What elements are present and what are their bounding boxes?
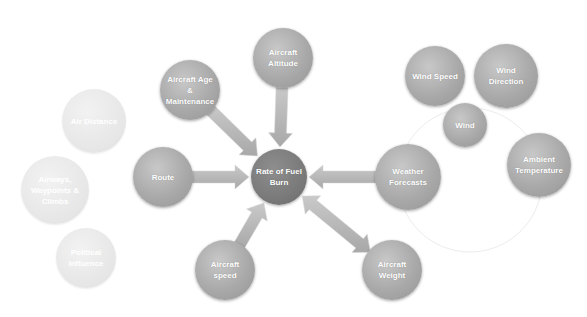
arrow-age: [206, 105, 258, 156]
node-rate-of-fuel-burn: Rate of Fuel Burn: [251, 149, 307, 205]
node-ambient-temp: Ambient Temperature: [507, 133, 571, 197]
node-label: Air Distance: [71, 116, 118, 127]
arrow-speed: [234, 203, 267, 249]
node-label: Ambient Temperature: [511, 154, 567, 176]
arrow-weather: [309, 165, 377, 189]
node-label: Weather Forecasts: [379, 166, 437, 188]
node-label: Wind Speed: [412, 71, 458, 82]
node-label: Aircraft Age & Maintenance: [164, 74, 216, 107]
fuel-burn-diagram: Air DistanceAirways, Waypoints & ClimbsP…: [0, 0, 587, 317]
node-wind: Wind: [443, 103, 487, 147]
node-label: Rate of Fuel Burn: [255, 166, 303, 188]
node-airways: Airways, Waypoints & Climbs: [21, 156, 89, 224]
node-label: Route: [152, 172, 175, 183]
arrow-weight: [302, 196, 370, 253]
node-label: Wind: [455, 120, 474, 131]
node-wind-direction: Wind Direction: [474, 44, 538, 108]
node-weather: Weather Forecasts: [375, 144, 441, 210]
node-weight: Aircraft Weight: [362, 240, 422, 300]
node-air-distance: Air Distance: [62, 89, 126, 153]
node-label: Aircraft Altitude: [257, 47, 309, 69]
node-political: Political Influence: [56, 228, 116, 288]
node-route: Route: [133, 147, 193, 207]
node-wind-speed: Wind Speed: [405, 46, 465, 106]
arrow-altitude: [269, 86, 293, 147]
node-label: Aircraft speed: [199, 259, 251, 281]
node-label: Airways, Waypoints & Climbs: [25, 174, 85, 207]
arrow-route: [191, 165, 249, 189]
node-speed: Aircraft speed: [195, 240, 255, 300]
node-label: Wind Direction: [478, 65, 534, 87]
node-altitude: Aircraft Altitude: [253, 28, 313, 88]
node-label: Political Influence: [60, 247, 112, 269]
node-label: Aircraft Weight: [366, 259, 418, 281]
node-age: Aircraft Age & Maintenance: [160, 60, 220, 120]
